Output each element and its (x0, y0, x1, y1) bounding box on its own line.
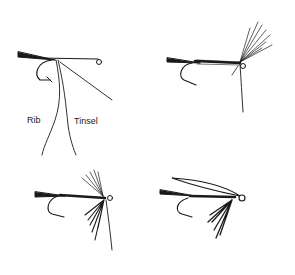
step-3-illustration (35, 170, 113, 250)
tinsel-label: Tinsel (74, 116, 98, 126)
fly-tying-diagram: Rib Tinsel (0, 0, 295, 275)
step-2-illustration (167, 22, 272, 112)
rib-label: Rib (27, 115, 41, 125)
step-4-illustration (160, 178, 245, 238)
step-1-illustration (18, 52, 112, 155)
diagram-drawing (0, 0, 295, 275)
